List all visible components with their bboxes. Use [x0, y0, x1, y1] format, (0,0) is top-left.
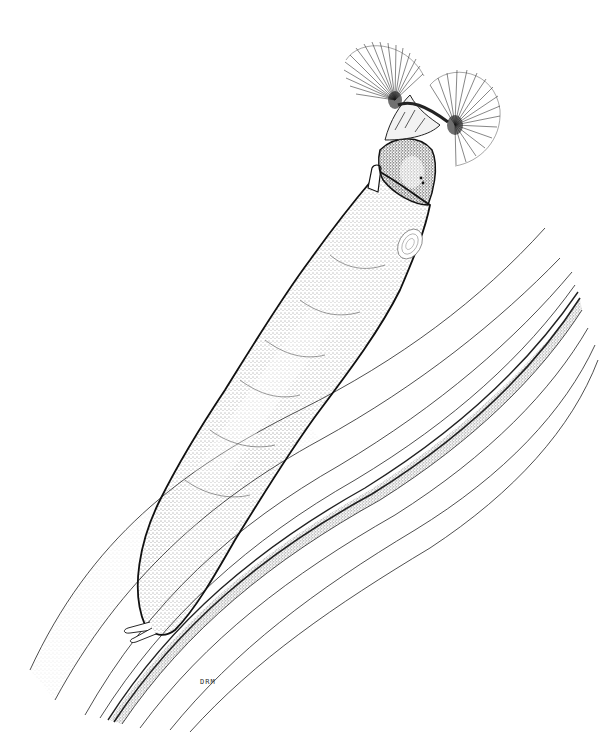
- labral-fan-left: [344, 42, 424, 100]
- artist-signature: DRM: [200, 678, 216, 686]
- illustration-canvas: [0, 0, 610, 737]
- larva-body: [124, 165, 430, 643]
